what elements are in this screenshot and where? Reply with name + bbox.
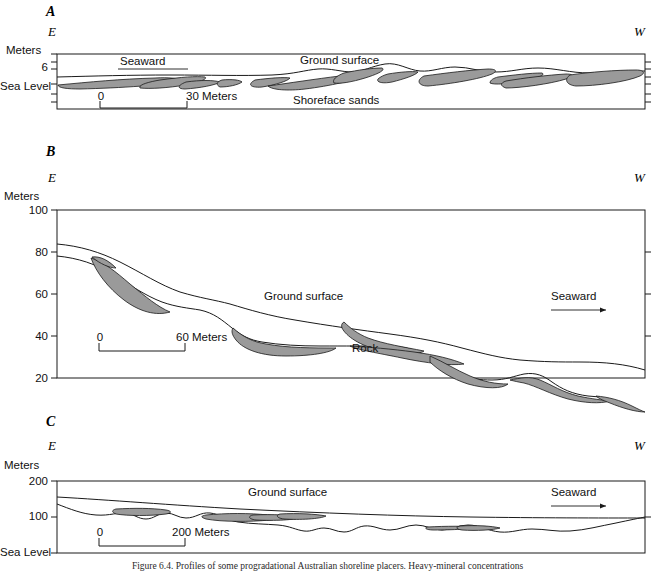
panel-a-scale-bar bbox=[100, 101, 187, 108]
panel-a-plot: Seaward Ground surface Shoreface sands 0… bbox=[0, 0, 655, 140]
panel-a-left-ticks bbox=[51, 54, 57, 102]
panel-c-scale-bar bbox=[99, 538, 185, 546]
panel-c-plot: Ground surface Seaward 0 200 Meters bbox=[0, 412, 655, 560]
panel-c-left-ticks bbox=[51, 481, 57, 553]
panel-b-seaward-label: Seaward bbox=[551, 290, 596, 302]
panel-c-seaward-arrow bbox=[551, 504, 606, 509]
panel-b-plot: Ground surface Rock Seaward 0 60 Meters bbox=[0, 140, 655, 412]
panel-c-ground-surface-label: Ground surface bbox=[248, 486, 327, 498]
panel-b: B E W Meters 100 80 60 40 20 bbox=[0, 140, 655, 412]
panel-a-ore-lenses bbox=[58, 68, 643, 90]
panel-b-right-ticks bbox=[645, 252, 651, 336]
panel-c-scale-start: 0 bbox=[97, 526, 103, 538]
panel-b-ground-surface-label: Ground surface bbox=[264, 290, 343, 302]
panel-a-seaward-label: Seaward bbox=[120, 55, 165, 67]
panel-b-ore-lenses bbox=[91, 257, 645, 412]
panel-a-ground-surface-label: Ground surface bbox=[300, 54, 379, 66]
figure-root: A E W Meters 6 Sea Level bbox=[0, 0, 655, 574]
panel-b-substrate-label: Rock bbox=[352, 342, 378, 354]
panel-a-scale-end: 30 Meters bbox=[186, 90, 237, 102]
panel-a: A E W Meters 6 Sea Level bbox=[0, 0, 655, 140]
panel-b-seaward-arrow bbox=[551, 308, 606, 313]
panel-b-scale-bar bbox=[99, 343, 185, 351]
panel-a-substrate-label: Shoreface sands bbox=[293, 94, 380, 106]
panel-a-right-ticks bbox=[645, 62, 651, 102]
panel-c-scale-end: 200 Meters bbox=[172, 526, 230, 538]
figure-caption: Figure 6.4. Profiles of some progradatio… bbox=[0, 560, 655, 574]
panel-c: C E W Meters 200 100 Sea Level bbox=[0, 412, 655, 560]
panel-c-seaward-label: Seaward bbox=[551, 486, 596, 498]
panel-b-rock-line bbox=[57, 256, 600, 397]
panel-b-scale-start: 0 bbox=[97, 331, 103, 343]
panel-b-left-ticks bbox=[51, 210, 57, 378]
panel-a-scale-start: 0 bbox=[98, 90, 104, 102]
panel-b-scale-end: 60 Meters bbox=[176, 331, 227, 343]
